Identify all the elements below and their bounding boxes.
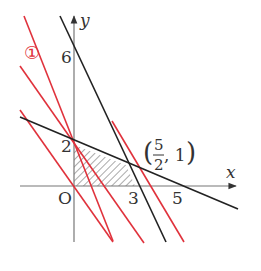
svg-text:, 1: , 1 — [164, 145, 186, 165]
y-axis-label: y — [79, 10, 90, 30]
boundary-line-1 — [60, 16, 166, 242]
tick-y-2: 2 — [61, 136, 72, 156]
tick-y-6: 6 — [61, 47, 72, 67]
svg-text:(: ( — [143, 137, 153, 167]
vertex-label: ( 5 2 , 1 ) — [143, 136, 196, 174]
tick-x-3: 3 — [128, 188, 139, 208]
family-marker: ① — [24, 42, 40, 63]
svg-text:5: 5 — [154, 136, 164, 154]
svg-text:): ) — [186, 137, 196, 167]
svg-text:2: 2 — [154, 156, 164, 174]
x-axis-label: x — [226, 162, 236, 182]
tick-x-5: 5 — [172, 188, 183, 208]
diagram-canvas: y x O 6 2 3 5 ① ( 5 2 , 1 ) — [0, 0, 261, 271]
origin-label: O — [58, 188, 72, 208]
